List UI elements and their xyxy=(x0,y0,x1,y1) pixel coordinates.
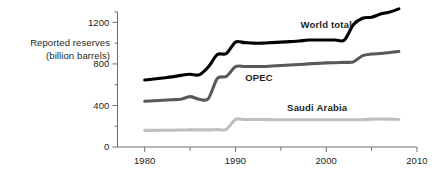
series-label-saudi-arabia: Saudi Arabia xyxy=(287,102,348,113)
series-line-saudi-arabia xyxy=(145,119,399,131)
y-tick-label: 1200 xyxy=(88,17,110,28)
x-tick-label: 1990 xyxy=(225,155,247,166)
series-group xyxy=(145,9,399,131)
x-tick-label: 1980 xyxy=(134,155,156,166)
y-tick-label: 800 xyxy=(93,58,109,69)
x-tick-label: 2000 xyxy=(315,155,337,166)
x-tick-label: 2010 xyxy=(406,155,428,166)
series-label-world-total: World total xyxy=(300,19,352,30)
chart-figure: Reported reserves (billion barrels) 0400… xyxy=(0,0,439,176)
y-tick-label: 0 xyxy=(104,141,109,152)
tick-label-group: 040080012001980199020002010 xyxy=(88,17,428,166)
chart-plot: 040080012001980199020002010 World totalO… xyxy=(0,0,439,176)
series-line-world-total xyxy=(145,9,399,80)
series-label-opec: OPEC xyxy=(245,72,273,83)
y-tick-label: 400 xyxy=(93,100,109,111)
